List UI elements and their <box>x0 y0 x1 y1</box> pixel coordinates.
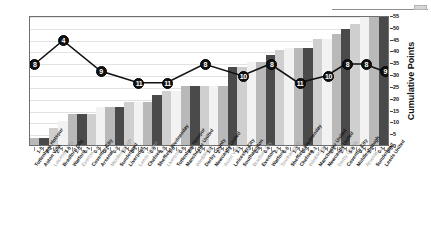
line-marker: 10 <box>323 71 334 82</box>
y-tick-label: 40 <box>393 48 399 54</box>
chart-container: 849111181081110889 555045403530252015105… <box>0 0 431 234</box>
line-marker: 8 <box>200 59 211 70</box>
line-marker: 8 <box>29 59 40 70</box>
y-tick-label: 5 <box>393 131 396 137</box>
y-tick-label: 20 <box>393 96 399 102</box>
y-tick-label: 25 <box>393 84 399 90</box>
line-marker: 9 <box>96 66 107 77</box>
line-marker: 9 <box>380 66 389 77</box>
line-marker: 11 <box>162 78 173 89</box>
header-rule-cap <box>414 5 427 10</box>
y-axis-title: Cumulative Points <box>406 16 424 146</box>
y-tick-label: 30 <box>393 72 399 78</box>
line-marker: 8 <box>361 59 372 70</box>
y-tick-label: 55 <box>393 13 399 19</box>
line-marker: 11 <box>295 78 306 89</box>
line-marker: 4 <box>58 35 69 46</box>
y-tick-label: 10 <box>393 119 399 125</box>
y-tick-label: 35 <box>393 60 399 66</box>
line-marker: 10 <box>238 71 249 82</box>
line-marker: 8 <box>266 59 277 70</box>
x-axis-labels: 1-0Tottenham Hotspur2-2Aston Villa2-1Lei… <box>29 147 389 233</box>
y-tick-label: 45 <box>393 37 399 43</box>
line-marker: 8 <box>342 59 353 70</box>
y-tick-label: 50 <box>393 25 399 31</box>
y-tick-label: 15 <box>393 108 399 114</box>
